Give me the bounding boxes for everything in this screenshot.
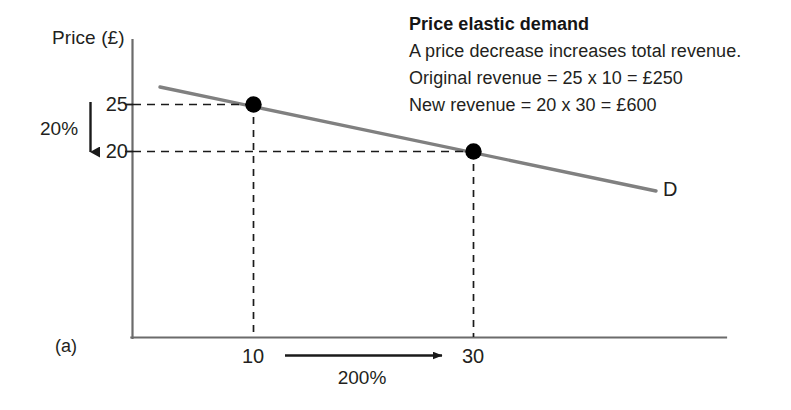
annotation-title: Price elastic demand (409, 14, 781, 35)
annotation-line-3: New revenue = 20 x 30 = £600 (409, 95, 781, 116)
panel-label: (a) (55, 337, 77, 355)
elasticity-figure: Price (£) 25 20 20% 10 30 200% D (a) Pri… (0, 0, 791, 410)
x-tick-label-30: 30 (453, 346, 493, 366)
annotation-line-2: Original revenue = 25 x 10 = £250 (409, 68, 781, 89)
y-axis-title: Price (£) (52, 28, 125, 47)
data-point-original (245, 96, 261, 112)
y-tick-label-25: 25 (94, 94, 128, 114)
y-tick-label-20: 20 (94, 141, 128, 161)
x-tick-label-10: 10 (233, 346, 273, 366)
demand-curve-label: D (663, 179, 677, 199)
price-change-label: 20% (40, 119, 78, 138)
data-point-new (465, 143, 481, 159)
annotation-block: Price elastic demand A price decrease in… (409, 14, 781, 116)
annotation-line-1: A price decrease increases total revenue… (409, 41, 781, 62)
quantity-change-label: 200% (317, 368, 407, 387)
